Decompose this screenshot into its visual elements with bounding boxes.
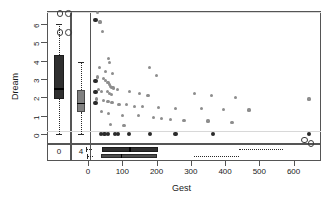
y-axis-tick	[41, 42, 47, 43]
data-point	[193, 92, 196, 95]
boxplot-whisker-cap	[86, 147, 87, 152]
x-axis-tick-label: 200	[145, 167, 169, 176]
data-point-highlighted	[93, 79, 97, 83]
boxplot-whisker	[81, 112, 82, 134]
boxplot-whisker	[194, 156, 239, 157]
y-axis-tick-label: 2	[32, 97, 41, 101]
x-axis-tick	[191, 161, 192, 166]
boxplot-median	[129, 147, 131, 152]
data-point	[110, 93, 113, 96]
y-axis-tick-label: 5	[32, 42, 41, 46]
x-axis-tick-label: 100	[110, 167, 134, 176]
boxplot-whisker-cap	[56, 134, 62, 135]
boxplot-box	[101, 154, 156, 158]
y-axis-tick	[41, 134, 47, 135]
x-axis-tick	[225, 161, 226, 166]
y-axis-tick	[41, 61, 47, 62]
y-axis-tick-label: 0	[32, 133, 41, 137]
data-point	[157, 106, 160, 109]
data-point	[210, 94, 213, 97]
data-point	[234, 96, 237, 99]
y-axis-tick-label: 4	[32, 60, 41, 64]
data-point	[247, 108, 250, 111]
data-point	[101, 30, 104, 33]
y-axis-title: Dream	[10, 73, 20, 100]
guide-line-top	[47, 12, 321, 13]
data-point	[146, 94, 149, 97]
data-point	[155, 74, 158, 77]
y-axis-tick	[41, 24, 47, 25]
data-point-highlighted	[148, 132, 152, 136]
guide-line-zero	[47, 131, 321, 132]
boxplot-whisker-cap	[56, 24, 62, 25]
data-point	[222, 108, 225, 111]
boxplot-outlier	[57, 29, 64, 36]
y-axis-tick	[41, 79, 47, 80]
data-point	[152, 116, 155, 119]
y-axis-tick	[41, 97, 47, 98]
data-point	[206, 119, 209, 122]
x-axis-tick	[157, 161, 158, 166]
x-axis-title: Gest	[172, 183, 191, 193]
x-axis-tick	[88, 161, 89, 166]
x-axis-tick-label: 500	[247, 167, 271, 176]
x-axis-tick-label: 300	[179, 167, 203, 176]
data-point-highlighted	[173, 132, 177, 136]
data-point-highlighted	[93, 90, 97, 94]
data-point	[182, 119, 185, 122]
y-axis-tick-label: 6	[32, 23, 41, 27]
boxplot-whisker-cap	[87, 154, 88, 159]
data-point	[133, 105, 136, 108]
boxplot-whisker	[239, 149, 284, 150]
y-axis-tick-label: 3	[32, 78, 41, 82]
data-point	[307, 97, 310, 100]
boxplot-whisker	[59, 99, 60, 134]
data-point	[98, 20, 101, 23]
data-point	[200, 107, 203, 110]
x-axis-tick	[259, 161, 260, 166]
data-point	[122, 124, 125, 127]
outlier-point	[65, 29, 72, 36]
data-point	[110, 101, 113, 104]
boxplot-median	[77, 103, 85, 105]
x-axis-tick-label: 600	[282, 167, 306, 176]
boxplot-box	[54, 55, 64, 99]
data-point	[174, 107, 177, 110]
boxplot-whisker	[81, 62, 82, 90]
outlier-point	[308, 140, 315, 147]
x-axis-tick	[294, 161, 295, 166]
scatterplot-figure: Dream Gest 0 4 0123456010020030040050060…	[0, 0, 329, 203]
boxplot-median	[54, 88, 64, 90]
group-label-0: 0	[53, 147, 65, 156]
y-axis-tick	[41, 116, 47, 117]
boxplot-median	[121, 154, 123, 158]
boxplot-box	[77, 90, 85, 112]
data-point-highlighted	[93, 101, 97, 105]
x-axis-tick-label: 0	[76, 167, 100, 176]
group-label-4: 4	[75, 147, 87, 156]
x-axis-tick	[122, 161, 123, 166]
data-point	[121, 114, 124, 117]
data-point	[104, 70, 107, 73]
data-point	[117, 103, 120, 106]
x-axis-tick-label: 400	[213, 167, 237, 176]
boxplot-whisker-cap	[78, 62, 84, 63]
data-point	[169, 118, 172, 121]
boxplot-whisker-cap	[78, 134, 84, 135]
y-axis-tick-label: 1	[32, 115, 41, 119]
